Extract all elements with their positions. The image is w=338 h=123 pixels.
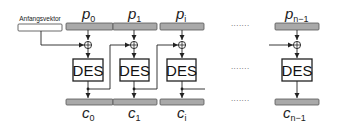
xor-icon xyxy=(178,41,185,48)
ciphertext-label-n-1: cn−1 xyxy=(283,104,306,123)
plaintext-block-n-1 xyxy=(275,23,319,30)
svg-text:DES: DES xyxy=(282,62,313,79)
plaintext-label-n-1: pn−1 xyxy=(284,5,309,24)
iv-label: Anfangsvektor xyxy=(19,15,61,23)
ciphertext-block-n-1 xyxy=(275,99,319,105)
plaintext-label-0: p0 xyxy=(81,5,95,24)
ellipsis-bottom: ······· xyxy=(231,96,250,105)
stage-0: p0 DES c0 xyxy=(66,5,113,123)
xor-icon xyxy=(130,41,137,48)
ciphertext-label-0: c0 xyxy=(82,104,95,123)
xor-icon xyxy=(293,41,300,48)
ciphertext-block-0 xyxy=(66,99,113,105)
plaintext-block-i xyxy=(160,23,204,30)
plaintext-label-i: pi xyxy=(175,5,186,24)
plaintext-block-0 xyxy=(66,23,113,30)
ellipsis-top: ······· xyxy=(231,21,250,30)
ciphertext-label-1: c1 xyxy=(128,104,141,123)
iv-to-xor-arrow xyxy=(41,31,84,45)
svg-text:DES: DES xyxy=(119,62,150,79)
stage-n-minus-1: pn−1 DES cn−1 xyxy=(269,5,319,123)
ellipsis-middle: ······· xyxy=(231,64,250,73)
ciphertext-label-i: ci xyxy=(177,104,187,123)
plaintext-block-1 xyxy=(113,23,157,30)
iv-block: Anfangsvektor xyxy=(18,15,62,31)
plaintext-label-1: p1 xyxy=(127,5,141,24)
cbc-diagram: Anfangsvektor p0 DES c0 p1 DES xyxy=(0,0,338,123)
svg-text:DES: DES xyxy=(73,62,104,79)
xor-icon xyxy=(84,41,91,48)
svg-text:DES: DES xyxy=(166,62,197,79)
stage-i: pi DES ci xyxy=(160,5,205,123)
stage-1: p1 DES c1 xyxy=(113,5,157,123)
